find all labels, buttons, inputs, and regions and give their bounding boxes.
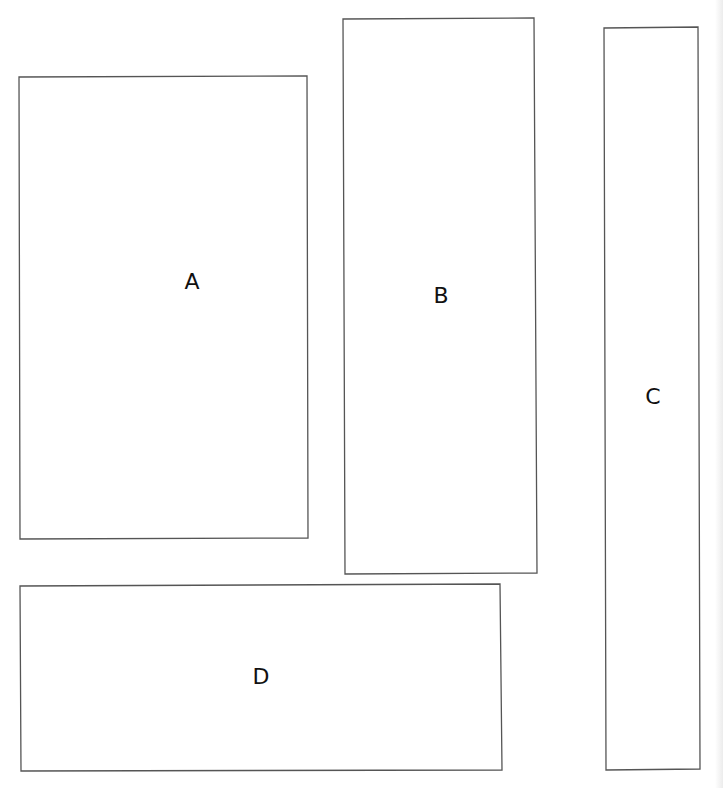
rectangle-a	[19, 76, 308, 539]
label-d: D	[253, 666, 270, 688]
label-b: B	[433, 285, 448, 307]
diagram-canvas	[0, 0, 723, 788]
label-c: C	[645, 386, 660, 408]
label-a: A	[184, 271, 199, 293]
